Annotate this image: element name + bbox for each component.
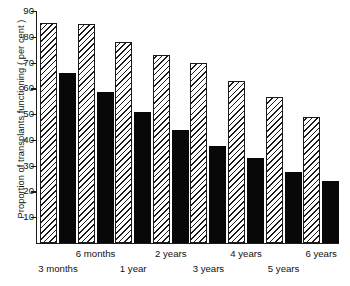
- bar-group: [228, 11, 264, 243]
- bar-group: [303, 11, 339, 243]
- y-tick-label: 10: [23, 210, 34, 223]
- bar-group: [115, 11, 151, 243]
- bar-hatched: [228, 81, 245, 243]
- bar-solid: [247, 158, 264, 243]
- bar-solid: [134, 112, 151, 243]
- x-axis-label: 6 months: [76, 248, 115, 260]
- bar-hatched: [266, 97, 283, 243]
- bar-hatched: [78, 24, 95, 243]
- bar-hatched: [303, 117, 320, 243]
- y-tick-label: 20: [23, 184, 34, 197]
- bar-chart-figure: Proportion of transplants functioning ( …: [0, 0, 350, 286]
- bar-group: [266, 11, 302, 243]
- y-tick-label: 40: [23, 133, 34, 146]
- bar-hatched: [40, 23, 57, 243]
- plot-area: 908070605040302010 3 months6 months1 yea…: [36, 11, 339, 243]
- x-axis-label: 1 year: [120, 263, 147, 275]
- y-tick-label: 80: [23, 30, 34, 43]
- bar-solid: [322, 181, 339, 243]
- bar-solid: [285, 172, 302, 243]
- x-axis-label: 3 months: [38, 263, 77, 275]
- x-axis-line: [36, 243, 339, 244]
- y-tick-label: 70: [23, 56, 34, 69]
- y-tick-label: 30: [23, 159, 34, 172]
- bar-solid: [97, 92, 114, 243]
- y-tick-label: 90: [23, 4, 34, 17]
- y-axis-line: [36, 11, 37, 244]
- bar-group: [153, 11, 189, 243]
- bar-group: [40, 11, 76, 243]
- bar-solid: [209, 146, 226, 243]
- bar-hatched: [153, 55, 170, 243]
- y-tick-label: 50: [23, 107, 34, 120]
- bar-group: [78, 11, 114, 243]
- x-axis-label: 3 years: [193, 263, 224, 275]
- bar-hatched: [190, 63, 207, 243]
- x-axis-label: 6 years: [305, 248, 336, 260]
- bar-solid: [172, 130, 189, 243]
- bar-hatched: [115, 42, 132, 243]
- x-axis-label: 2 years: [155, 248, 186, 260]
- x-axis-label: 5 years: [268, 263, 299, 275]
- bar-solid: [59, 73, 76, 243]
- bar-group: [190, 11, 226, 243]
- y-tick-label: 60: [23, 81, 34, 94]
- x-axis-label: 4 years: [230, 248, 261, 260]
